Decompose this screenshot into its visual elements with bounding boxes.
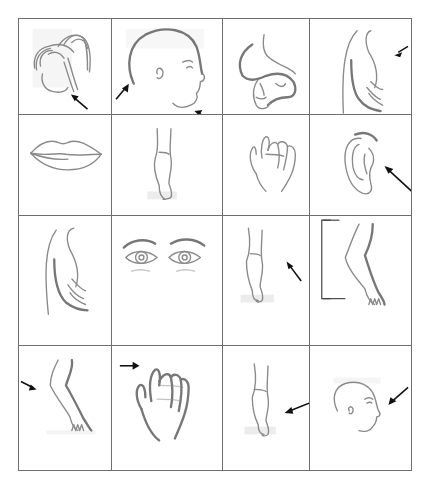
head-profile-drawing bbox=[310, 346, 411, 470]
cell-hair bbox=[18, 18, 112, 115]
cell-bent-leg-2 bbox=[18, 345, 112, 471]
leg-drawing bbox=[223, 346, 309, 470]
cell-hand bbox=[222, 114, 310, 216]
cell-foot bbox=[222, 18, 310, 115]
hand-drawing bbox=[223, 115, 309, 215]
ear-drawing bbox=[310, 115, 411, 215]
lips-drawing bbox=[19, 115, 111, 215]
cell-hand-2 bbox=[111, 345, 223, 471]
cell-ear bbox=[309, 114, 412, 216]
cell-head-profile bbox=[309, 345, 412, 471]
cell-back-2 bbox=[18, 215, 112, 346]
foot-drawing bbox=[223, 19, 309, 114]
back-torso-drawing bbox=[19, 216, 111, 345]
leg-drawing bbox=[112, 115, 222, 215]
cell-leg-3 bbox=[222, 345, 310, 471]
bald-head-profile-drawing bbox=[112, 19, 222, 114]
back-torso-drawing bbox=[310, 19, 411, 114]
cell-bent-leg bbox=[309, 215, 412, 346]
hand-drawing bbox=[112, 346, 222, 470]
leg-drawing bbox=[223, 216, 309, 345]
hair-ponytail-drawing bbox=[19, 19, 111, 114]
bent-leg-drawing bbox=[19, 346, 111, 470]
cell-leg-2 bbox=[222, 215, 310, 346]
cell-bald-head bbox=[111, 18, 223, 115]
picture-grid bbox=[18, 18, 412, 471]
bent-leg-drawing bbox=[310, 216, 411, 345]
cell-lips bbox=[18, 114, 112, 216]
cell-back bbox=[309, 18, 412, 115]
cell-eyes bbox=[111, 215, 223, 346]
eyes-eyebrows-drawing bbox=[112, 216, 222, 345]
cell-leg bbox=[111, 114, 223, 216]
